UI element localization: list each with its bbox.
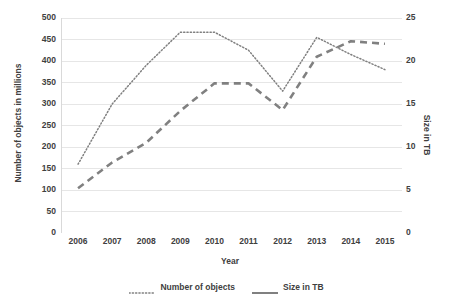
y-axis-left-tick-label: 250 — [22, 120, 56, 130]
y-axis-right-tick-label: 10 — [406, 141, 440, 151]
chart-legend: Number of objectsSize in TB — [0, 279, 453, 295]
y-axis-left-tick-label: 200 — [22, 141, 56, 151]
x-axis-tick-label: 2015 — [365, 236, 405, 246]
y-axis-left-tick-label: 150 — [22, 163, 56, 173]
legend-item[interactable]: Number of objects — [129, 282, 235, 292]
y-axis-right-ticks: 0510152025 — [406, 0, 440, 305]
y-axis-right-tick-label: 5 — [406, 184, 440, 194]
y-axis-left-tick-label: 100 — [22, 184, 56, 194]
x-axis-title: Year — [60, 256, 400, 266]
legend-label: Size in TB — [283, 282, 324, 292]
x-axis-ticks: 2006200720082009201020112012201320142015 — [0, 236, 453, 252]
dotted-line-icon — [129, 283, 155, 291]
plot-area — [61, 18, 402, 233]
series-lines — [61, 18, 402, 233]
y-axis-right-tick-label: 25 — [406, 12, 440, 22]
solid-line-icon — [252, 283, 278, 291]
y-axis-left-ticks: 050100150200250300350400450500 — [22, 0, 56, 305]
legend-item[interactable]: Size in TB — [252, 282, 324, 292]
y-axis-right-tick-label: 20 — [406, 55, 440, 65]
y-axis-left-tick-label: 400 — [22, 55, 56, 65]
y-axis-left-tick-label: 500 — [22, 12, 56, 22]
y-axis-left-tick-label: 50 — [22, 206, 56, 216]
y-axis-left-tick-label: 450 — [22, 34, 56, 44]
chart-container: Number of objects in millions Size in TB… — [0, 0, 453, 305]
y-axis-left-tick-label: 350 — [22, 77, 56, 87]
series-line-1 — [78, 41, 385, 188]
series-line-0 — [78, 32, 385, 164]
y-axis-right-tick-label: 15 — [406, 98, 440, 108]
y-axis-left-tick-label: 300 — [22, 98, 56, 108]
legend-label: Number of objects — [160, 282, 235, 292]
